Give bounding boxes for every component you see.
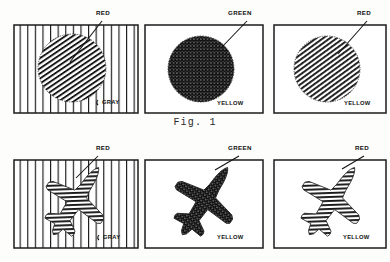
background-label-yellow: YELLOW bbox=[343, 234, 370, 240]
object-label-red: RED bbox=[355, 144, 369, 151]
background-label-gray: GRAY bbox=[102, 99, 119, 105]
background-label-gray: GRAY bbox=[103, 234, 120, 240]
panel-top-middle: GREEN YELLOW bbox=[143, 0, 265, 120]
object-label-green: GREEN bbox=[228, 9, 252, 16]
object-label-red: RED bbox=[96, 9, 110, 16]
panel-top-left: RED GRAY bbox=[12, 0, 140, 120]
figure-row-top: RED GRAY bbox=[0, 0, 390, 120]
object-label-green: GREEN bbox=[228, 144, 252, 151]
figure-caption: Fig. 1 bbox=[0, 117, 390, 128]
background-label-yellow: YELLOW bbox=[344, 100, 371, 106]
panel-top-right: RED YELLOW bbox=[272, 0, 388, 120]
panel-bottom-middle: GREEN YELLOW bbox=[143, 140, 265, 262]
object-label-red: RED bbox=[357, 9, 371, 16]
object-circle-hatched bbox=[294, 36, 360, 102]
background-label-yellow: YELLOW bbox=[217, 100, 244, 106]
figure-sheet: RED GRAY bbox=[0, 0, 390, 262]
panel-bottom-left: RED GRAY bbox=[12, 140, 140, 262]
figure-row-bottom: RED GRAY bbox=[0, 140, 390, 262]
panel-bottom-right: RED YELLOW bbox=[272, 140, 388, 262]
object-circle-crosshatched bbox=[168, 36, 234, 102]
object-circle-hatched bbox=[38, 34, 106, 102]
background-label-yellow: YELLOW bbox=[217, 234, 244, 240]
object-label-red: RED bbox=[96, 144, 110, 151]
